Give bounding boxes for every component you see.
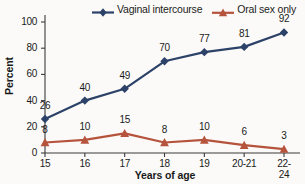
data-point-label: 6 (242, 126, 247, 137)
data-point-label: 26 (40, 100, 51, 111)
x-axis-title: Years of age (45, 169, 285, 181)
plot-area: Percent Years of age 0204060801001516171… (0, 0, 305, 184)
data-point-label: 92 (279, 13, 290, 24)
x-tick-label: 19 (199, 158, 210, 169)
data-point-marker (280, 28, 288, 36)
chart-canvas (0, 0, 305, 184)
y-tick-label: 100 (11, 16, 37, 27)
y-tick-label: 60 (11, 68, 37, 79)
data-point-label: 70 (159, 42, 170, 53)
data-point-label: 8 (42, 124, 47, 135)
data-point-label: 3 (281, 130, 286, 141)
data-point-label: 15 (119, 114, 130, 125)
x-tick-label: 20-21 (232, 158, 256, 169)
data-point-marker (81, 96, 89, 104)
x-tick-label: 22-24 (274, 158, 295, 180)
y-tick-label: 40 (11, 95, 37, 106)
y-tick-label: 20 (11, 121, 37, 132)
y-tick-label: 0 (11, 147, 37, 158)
data-point-label: 49 (119, 70, 130, 81)
chart-figure: Vaginal intercourse Oral sex only Percen… (0, 0, 305, 184)
data-point-marker (240, 43, 248, 51)
data-point-label: 40 (80, 82, 91, 93)
data-point-label: 10 (80, 121, 91, 132)
x-tick-label: 17 (119, 158, 130, 169)
x-tick-label: 16 (80, 158, 91, 169)
data-point-label: 81 (239, 28, 250, 39)
data-point-marker (200, 48, 208, 56)
data-point-label: 8 (162, 124, 167, 135)
data-point-label: 77 (199, 33, 210, 44)
data-point-marker (41, 115, 49, 123)
y-tick-label: 80 (11, 42, 37, 53)
x-tick-label: 15 (40, 158, 51, 169)
data-point-label: 10 (199, 121, 210, 132)
x-tick-label: 18 (159, 158, 170, 169)
